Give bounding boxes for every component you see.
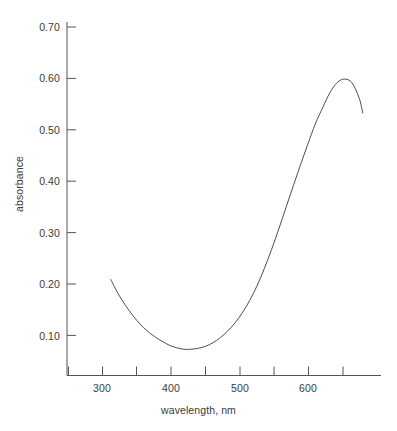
y-tick-label-010: 0.10 xyxy=(26,330,60,342)
y-tick-label-050: 0.50 xyxy=(26,124,60,136)
y-tick-label-040: 0.40 xyxy=(26,175,60,187)
x-tick-label-500: 500 xyxy=(220,382,260,394)
y-tick-label-030: 0.30 xyxy=(26,227,60,239)
absorbance-spectrum-figure: 0.70 0.60 0.50 0.40 0.30 0.20 0.10 300 4… xyxy=(0,0,397,431)
y-axis-label: absorbance xyxy=(13,139,25,229)
axis-spines xyxy=(67,22,381,376)
y-tick-label-020: 0.20 xyxy=(26,278,60,290)
x-tick-label-600: 600 xyxy=(288,382,328,394)
absorbance-curve xyxy=(111,79,363,349)
plot-canvas xyxy=(0,0,397,431)
y-tick-label-070: 0.70 xyxy=(26,21,60,33)
x-tick-label-400: 400 xyxy=(151,382,191,394)
x-axis-ticks xyxy=(69,367,344,376)
x-axis-label: wavelength, nm xyxy=(0,404,397,416)
x-tick-label-300: 300 xyxy=(82,382,122,394)
y-tick-label-060: 0.60 xyxy=(26,72,60,84)
y-axis-ticks xyxy=(67,27,76,335)
